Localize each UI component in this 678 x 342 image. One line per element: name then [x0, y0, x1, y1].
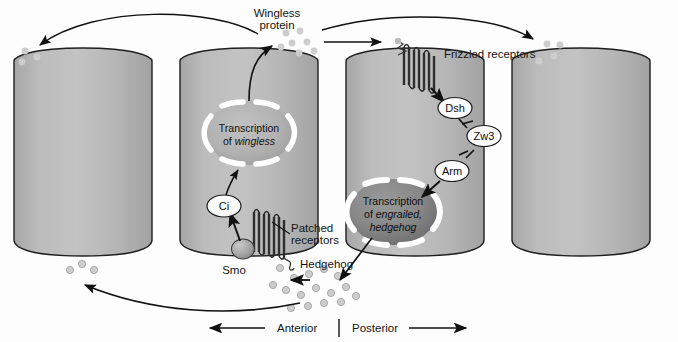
nucleus-1-line-1: Transcription: [219, 122, 279, 134]
patched-receptors-label-line-2: receptors: [291, 234, 339, 246]
nucleus-2-gene-2: hedgehog: [370, 221, 417, 233]
nucleus-2-gene-1: engrailed,: [376, 208, 422, 220]
protein-ci: Ci: [207, 195, 241, 217]
dsh-label: Dsh: [445, 102, 465, 114]
arrow-wingless-diffusion-right: [322, 17, 533, 39]
arrow-hedgehog-diffusion-left: [85, 285, 300, 311]
ci-label: Ci: [219, 200, 229, 212]
patched-receptors-label-line-1: Patched: [291, 222, 333, 234]
pathway-diagram: Transcription of wingless Transcription …: [0, 0, 678, 342]
zw3-label: Zw3: [474, 130, 495, 142]
protein-zw3: Zw3: [467, 126, 501, 147]
nucleus-2-line-1: Transcription: [363, 195, 423, 207]
wingless-protein-label-line-1: Wingless: [254, 7, 301, 19]
hedgehog-label: Hedgehog: [300, 258, 353, 270]
nucleus-1-of: of: [223, 135, 235, 147]
protein-smo: [232, 239, 255, 259]
nucleus-2-of: of: [364, 208, 376, 220]
nucleus-1-gene: wingless: [235, 135, 276, 147]
arm-label: Arm: [442, 165, 462, 177]
cell-1: [14, 48, 152, 256]
anterior-label: Anterior: [277, 322, 317, 334]
hedgehog-particle-cloud-left: [66, 260, 97, 273]
smo-label: Smo: [222, 264, 246, 276]
protein-dsh: Dsh: [438, 98, 472, 119]
nucleus-2-line-2: of engrailed,: [364, 208, 422, 220]
nucleus-1-line-2: of wingless: [223, 135, 276, 147]
arrow-wingless-diffusion-left: [40, 14, 258, 45]
figure-canvas: Transcription of wingless Transcription …: [0, 0, 678, 342]
protein-arm: Arm: [435, 161, 469, 182]
cell-4: [512, 48, 650, 256]
posterior-label: Posterior: [352, 322, 398, 334]
wingless-protein-label-line-2: protein: [259, 19, 294, 31]
frizzled-receptors-label: Frizzled receptors: [444, 48, 536, 60]
